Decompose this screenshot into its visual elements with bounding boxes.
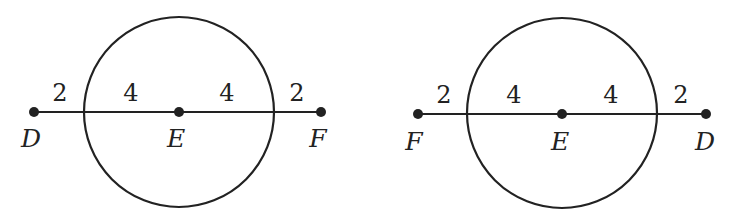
segment-length: 4 xyxy=(123,79,138,107)
diagram-left: 2 4 4 2 D E F xyxy=(20,17,328,207)
point-e-left xyxy=(174,107,184,117)
segment-length: 2 xyxy=(673,81,688,109)
circle-diagrams: 2 4 4 2 D E F 2 4 4 2 F E D xyxy=(0,0,732,218)
segment-length: 4 xyxy=(603,81,618,109)
diagram-right: 2 4 4 2 F E D xyxy=(404,18,715,208)
point-label: F xyxy=(308,124,328,153)
point-label: D xyxy=(694,127,715,156)
point-e-right xyxy=(557,109,567,119)
segment-length: 2 xyxy=(52,79,67,107)
segment-length: 2 xyxy=(436,81,451,109)
point-d-left xyxy=(29,107,39,117)
segment-length: 4 xyxy=(219,79,234,107)
point-d-right xyxy=(701,109,711,119)
point-f-right xyxy=(413,109,423,119)
segment-length: 4 xyxy=(506,81,521,109)
segment-length: 2 xyxy=(289,79,304,107)
point-label: E xyxy=(550,127,569,156)
point-label: D xyxy=(20,124,41,153)
point-f-left xyxy=(316,107,326,117)
point-label: F xyxy=(404,127,424,156)
point-label: E xyxy=(166,124,185,153)
